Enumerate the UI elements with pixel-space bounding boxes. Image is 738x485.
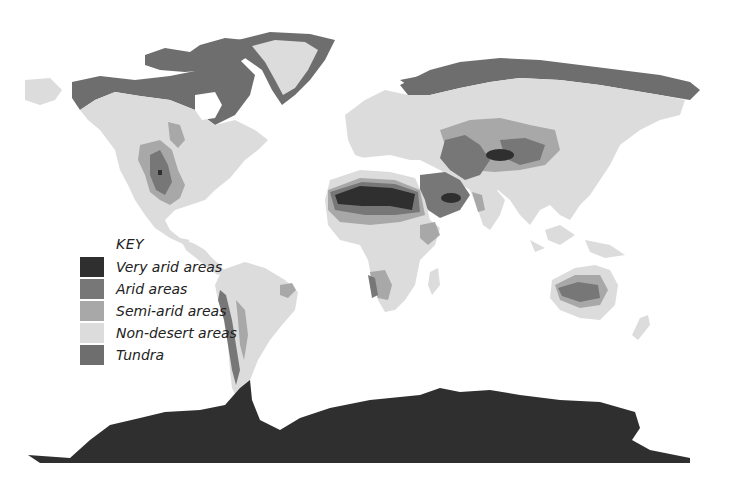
australia	[550, 265, 650, 340]
legend-item-non-desert: Non-desert areas	[80, 322, 237, 344]
legend-label: Non-desert areas	[116, 325, 237, 341]
legend-title: KEY	[116, 236, 237, 252]
greenland	[238, 32, 335, 105]
swatch-non-desert	[80, 323, 104, 343]
legend-item-semi-arid: Semi-arid areas	[80, 300, 237, 322]
legend-item-tundra: Tundra	[80, 344, 237, 366]
north-america	[25, 38, 268, 245]
swatch-very-arid	[80, 257, 104, 277]
swatch-tundra	[80, 345, 104, 365]
legend-label: Arid areas	[116, 281, 187, 297]
legend-label: Tundra	[116, 347, 164, 363]
legend-label: Semi-arid areas	[116, 303, 226, 319]
swatch-semi-arid	[80, 301, 104, 321]
legend-item-arid: Arid areas	[80, 278, 237, 300]
legend-label: Very arid areas	[116, 259, 222, 275]
map-legend: KEY Very arid areas Arid areas Semi-arid…	[80, 236, 237, 366]
antarctica	[28, 380, 690, 463]
swatch-arid	[80, 279, 104, 299]
legend-item-very-arid: Very arid areas	[80, 256, 237, 278]
